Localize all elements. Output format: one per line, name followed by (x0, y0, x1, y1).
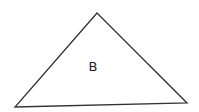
triangle-shape (15, 13, 187, 107)
triangle-label: B (89, 59, 98, 74)
triangle-diagram: B (0, 0, 199, 112)
